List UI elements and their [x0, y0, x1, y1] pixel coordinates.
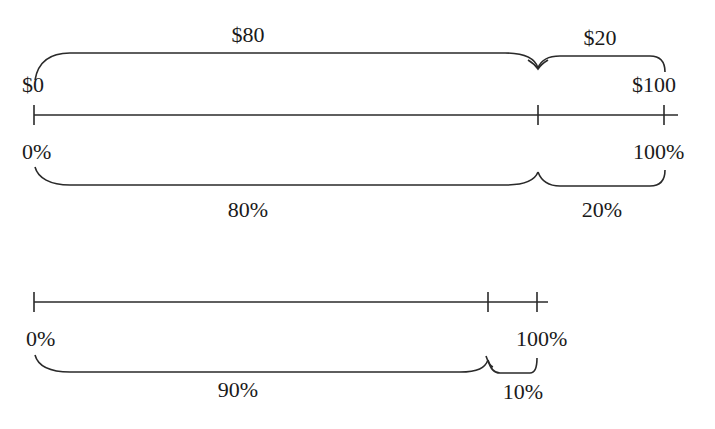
top-lower-brace-b	[538, 170, 665, 186]
top-upper-brace-a	[35, 53, 538, 80]
top-label-segment-b-amount: $20	[584, 25, 617, 50]
bottom-label-segment-a-percent: 90%	[218, 377, 258, 402]
top-label-segment-a-percent: 80%	[228, 197, 268, 222]
top-label-segment-a-amount: $80	[232, 22, 265, 47]
top-label-end-amount: $100	[632, 72, 676, 97]
top-label-end-percent: 100%	[633, 139, 684, 164]
top-upper-brace-junction	[528, 60, 548, 69]
bottom-label-segment-b-percent: 10%	[503, 379, 543, 404]
top-lower-brace-a	[35, 167, 538, 185]
top-number-line: $80 $20 $0 $100 0% 100% 80% 20%	[22, 22, 684, 222]
top-upper-brace-b	[538, 56, 665, 72]
top-label-segment-b-percent: 20%	[582, 197, 622, 222]
bottom-number-line: 0% 100% 90% 10%	[26, 292, 567, 404]
bottom-label-end-percent: 100%	[516, 326, 567, 351]
bottom-label-start-percent: 0%	[26, 326, 55, 351]
number-line-diagram: $80 $20 $0 $100 0% 100% 80% 20% 0% 100% …	[0, 0, 715, 429]
top-label-start-percent: 0%	[22, 139, 51, 164]
bottom-lower-brace-b	[488, 358, 537, 373]
top-label-start-amount: $0	[22, 72, 44, 97]
bottom-lower-brace-a	[35, 355, 488, 372]
